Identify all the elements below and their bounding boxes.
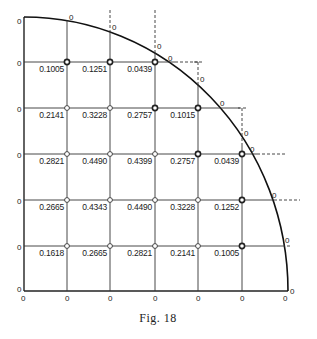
value-r5c4: 0.2141 <box>170 248 195 258</box>
svg-text:0: 0 <box>17 59 22 68</box>
svg-text:0: 0 <box>250 145 255 154</box>
svg-text:0: 0 <box>285 236 290 245</box>
svg-text:0: 0 <box>112 23 117 32</box>
svg-text:0: 0 <box>17 105 22 114</box>
value-r3c2: 0.4490 <box>82 156 107 166</box>
value-r4c2: 0.4343 <box>82 202 107 212</box>
value-r3c1: 0.2821 <box>39 156 64 166</box>
figure-caption: Fig. 18 <box>139 311 177 325</box>
svg-text:0: 0 <box>240 294 245 303</box>
value-r2c3: 0.2757 <box>127 110 152 120</box>
svg-text:0: 0 <box>108 294 113 303</box>
value-r5c2: 0.2665 <box>82 248 107 258</box>
svg-text:0: 0 <box>220 99 225 108</box>
value-r4c3: 0.4490 <box>127 202 152 212</box>
svg-text:0: 0 <box>168 54 173 63</box>
value-r1c3: 0.0439 <box>127 64 152 74</box>
value-r1c1: 0.1005 <box>39 64 64 74</box>
svg-text:0: 0 <box>196 294 201 303</box>
svg-text:0: 0 <box>21 294 26 303</box>
value-r2c2: 0.3228 <box>82 110 107 120</box>
svg-text:0: 0 <box>244 129 249 138</box>
svg-text:0: 0 <box>157 42 162 51</box>
svg-text:0: 0 <box>65 294 70 303</box>
value-r2c1: 0.2141 <box>39 110 64 120</box>
svg-text:0: 0 <box>17 197 22 206</box>
value-r1c2: 0.1251 <box>82 64 107 74</box>
svg-text:0: 0 <box>17 285 22 294</box>
svg-text:0: 0 <box>283 294 288 303</box>
value-r3c3: 0.4399 <box>127 156 152 166</box>
value-r4c4: 0.3228 <box>170 202 195 212</box>
value-r5c3: 0.2821 <box>127 248 152 258</box>
svg-text:0: 0 <box>17 243 22 252</box>
svg-text:0: 0 <box>290 287 295 296</box>
node-value-labels: 0.1005 0.1251 0.0439 0.2141 0.3228 0.275… <box>39 64 239 258</box>
value-r4c5: 0.1252 <box>214 202 239 212</box>
value-r3c4: 0.2757 <box>170 156 195 166</box>
svg-text:0: 0 <box>272 191 277 200</box>
svg-text:0: 0 <box>153 294 158 303</box>
value-r5c1: 0.1618 <box>39 248 64 258</box>
figure-18: 0.1005 0.1251 0.0439 0.2141 0.3228 0.275… <box>0 0 317 339</box>
value-r2c4: 0.1015 <box>170 110 195 120</box>
svg-text:0: 0 <box>17 151 22 160</box>
value-r4c1: 0.2665 <box>39 202 64 212</box>
svg-text:0: 0 <box>69 13 74 22</box>
svg-text:0: 0 <box>200 75 205 84</box>
svg-text:0: 0 <box>17 17 22 26</box>
value-r3c5: 0.0439 <box>214 156 239 166</box>
value-r5c5: 0.1005 <box>214 248 239 258</box>
